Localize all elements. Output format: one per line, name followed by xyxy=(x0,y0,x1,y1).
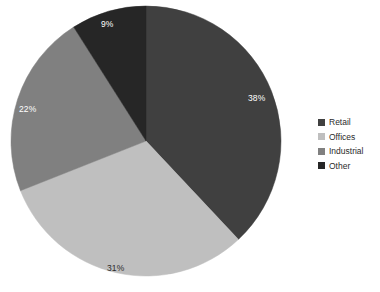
legend-swatch-icon xyxy=(318,119,325,126)
legend-item-retail[interactable]: Retail xyxy=(318,117,364,127)
chart-legend: RetailOfficesIndustrialOther xyxy=(318,117,364,171)
pie-chart: 38% 31% 22% 9% RetailOfficesIndustrialOt… xyxy=(0,0,380,292)
legend-item-label: Other xyxy=(329,161,350,171)
slice-label-offices: 31% xyxy=(107,263,124,273)
legend-item-label: Retail xyxy=(329,117,351,127)
legend-item-industrial[interactable]: Industrial xyxy=(318,146,364,156)
slice-label-industrial: 22% xyxy=(19,104,36,114)
legend-swatch-icon xyxy=(318,133,325,140)
pie-slices xyxy=(11,6,281,276)
legend-swatch-icon xyxy=(318,162,325,169)
slice-label-other: 9% xyxy=(101,19,114,29)
legend-item-offices[interactable]: Offices xyxy=(318,132,364,142)
legend-swatch-icon xyxy=(318,148,325,155)
legend-item-other[interactable]: Other xyxy=(318,161,364,171)
legend-item-label: Offices xyxy=(329,132,355,142)
legend-item-label: Industrial xyxy=(329,146,364,156)
slice-label-retail: 38% xyxy=(248,93,265,103)
